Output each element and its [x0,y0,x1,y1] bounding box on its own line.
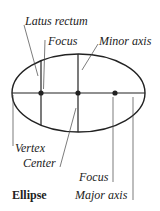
ellipse-diagram: Latus rectum Focus Minor axis Vertex Cen… [0,0,160,211]
center-leader [60,108,76,167]
center-point [75,90,80,95]
center-label: Center [23,156,56,170]
focus-right-point [112,90,117,95]
major-axis-label: Major axis [74,188,128,202]
focus-top-label: Focus [47,34,78,48]
vertex-label: Vertex [15,141,46,155]
minor-axis-leader [82,44,98,70]
diagram-title: Ellipse [12,188,47,202]
latus-rectum-label: Latus rectum [24,14,88,28]
focus-bottom-label: Focus [78,170,109,184]
minor-axis-label: Minor axis [98,34,152,48]
focus-top-leader [44,40,46,89]
focus-left-point [38,90,43,95]
